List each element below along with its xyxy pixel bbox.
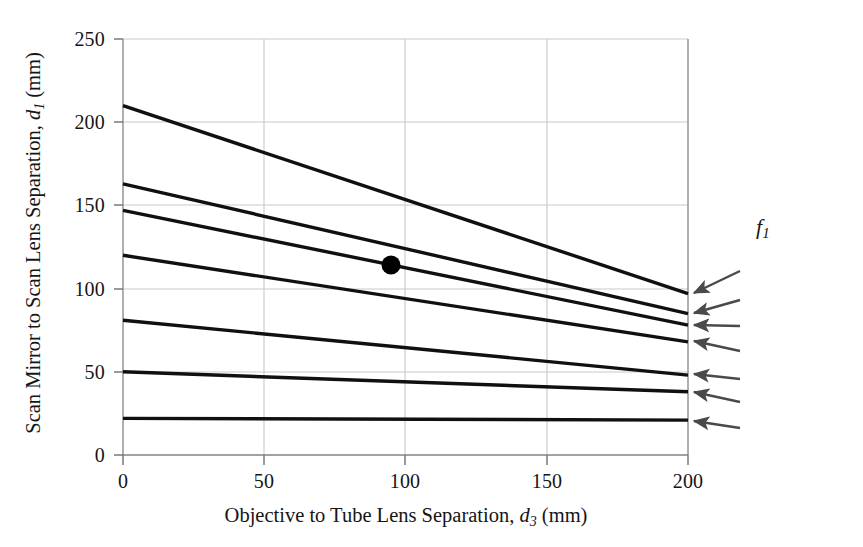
leader-arrow-92_7mm <box>694 325 740 326</box>
y-axis-title-text: Scan Mirror to Scan Lens Separation, <box>22 120 44 434</box>
figure-container: 250 200 150 100 50 0 0 50 100 150 200 Sc… <box>0 0 863 547</box>
legend-title-subscript: 1 <box>762 225 769 241</box>
x-tick-label-50: 50 <box>234 470 294 493</box>
y-tick-label-200: 200 <box>49 111 105 134</box>
y-tick-label-100: 100 <box>49 278 105 301</box>
operating-point-marker <box>382 256 401 275</box>
leader-arrow-100mm <box>694 300 740 313</box>
x-tick-label-150: 150 <box>517 470 577 493</box>
y-tick-label-150: 150 <box>49 194 105 217</box>
x-tick-label-100: 100 <box>375 470 435 493</box>
y-axis-title-variable: d <box>22 110 44 120</box>
x-axis-title-variable: d <box>520 504 530 526</box>
x-axis-title: Objective to Tube Lens Separation, d3 (m… <box>123 504 689 530</box>
y-axis-ticks <box>114 39 123 455</box>
leader-arrow-40mm <box>694 392 740 402</box>
legend-leader-arrows <box>694 271 740 428</box>
leader-arrow-120mm <box>694 271 740 293</box>
x-axis-ticks <box>123 455 688 465</box>
y-tick-label-250: 250 <box>49 28 105 51</box>
x-axis-title-units: (mm) <box>537 504 588 526</box>
leader-arrow-80mm <box>694 341 740 351</box>
x-axis-title-text: Objective to Tube Lens Separation, <box>225 504 520 526</box>
y-tick-label-0: 0 <box>49 444 105 467</box>
legend-title: f1 <box>756 214 770 242</box>
y-axis-title-units: (mm) <box>22 52 44 103</box>
y-axis-title-subscript: 1 <box>32 103 47 110</box>
chart-plot-area <box>0 0 863 547</box>
leader-arrow-60mm <box>694 374 740 379</box>
y-tick-label-50: 50 <box>49 361 105 384</box>
x-tick-label-200: 200 <box>658 470 718 493</box>
leader-arrow-20mm <box>694 421 740 428</box>
series-line-20mm <box>123 418 688 420</box>
y-axis-title: Scan Mirror to Scan Lens Separation, d1 … <box>22 33 48 453</box>
x-axis-title-subscript: 3 <box>530 514 537 529</box>
x-tick-label-0: 0 <box>93 470 153 493</box>
